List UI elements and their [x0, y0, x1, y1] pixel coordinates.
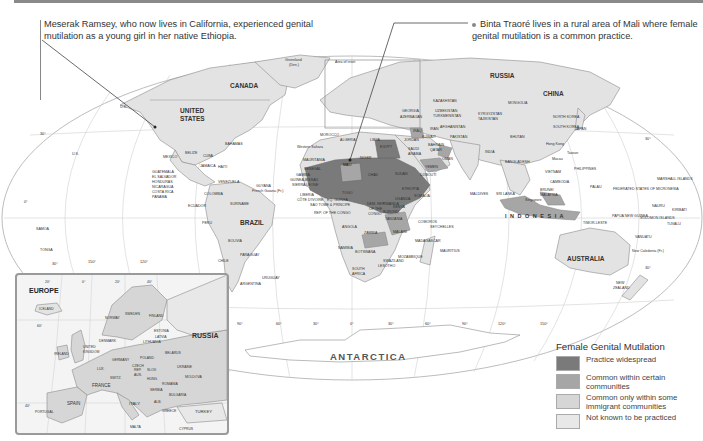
lon-label-60w: 60°: [276, 322, 282, 326]
europe-inset-map: EUROPE ICELAND NORWAY SWEDEN FINLAND RUS…: [17, 275, 227, 433]
inset-label-portugal: PORTUGAL: [35, 410, 54, 414]
label-malawi: MALAWI: [393, 230, 407, 234]
lon-label-120e: 120°: [498, 322, 506, 326]
inset-label-greece: GREECE: [162, 409, 177, 413]
inset-lat-40n: 40°: [25, 404, 31, 408]
label-drc-1: DEM. REP.: [367, 202, 385, 206]
label-georgia: GEORGIA: [402, 109, 419, 113]
legend-swatch-certain-communities: [556, 374, 580, 389]
inset-label-poland: POLAND: [140, 356, 154, 360]
label-drc-2: OF THE: [369, 207, 383, 211]
label-liberia: LIBERIA: [300, 193, 314, 197]
inset-label-czech-2: REP.: [134, 368, 142, 372]
label-mongolia: MONGOLIA: [508, 101, 528, 105]
label-djibouti: DJIBOUTI: [420, 173, 436, 177]
label-senegal: SENEGAL: [304, 167, 321, 171]
inset-label-latvia: LATVIA: [155, 335, 167, 339]
label-kyrgyzstan: KYRGYZSTAN: [478, 112, 502, 116]
label-saudi-2: ARABIA: [408, 152, 422, 156]
label-bangladesh: BANGLADESH: [505, 160, 530, 164]
label-yemen: YEMEN: [425, 165, 438, 169]
legend-swatch-widespread: [556, 356, 580, 371]
label-venezuela: VENEZUELA: [218, 180, 240, 184]
legend: Female Genital Mutilation Practice wides…: [556, 341, 703, 432]
inset-title: EUROPE: [29, 287, 59, 294]
inset-label-lux: LUX.: [97, 367, 105, 371]
lon-label-0: 0°: [350, 322, 354, 326]
inset-label-germany: GERMANY: [112, 358, 130, 362]
lon-label-60e: 60°: [425, 322, 431, 326]
inset-lon-20w: 20°: [45, 280, 51, 284]
inset-russia: [167, 275, 227, 335]
label-south-africa-2: AFRICA: [352, 272, 366, 276]
label-bhutan: BHUTAN: [510, 135, 525, 139]
label-libya: LIBYA: [370, 138, 381, 142]
lat-label-30s-right: 30°: [645, 266, 651, 270]
label-kazakhstan: KAZAKHSTAN: [433, 99, 457, 103]
label-marshall: MARSHALL ISLANDS: [657, 177, 693, 181]
label-somalia: SOMALIA: [414, 194, 431, 198]
label-lesotho: LESOTHO: [378, 264, 395, 268]
label-ecuador: ECUADOR: [188, 204, 206, 208]
label-paraguay: PARAGUAY: [240, 253, 260, 257]
legend-label-immigrant-communities: Common only within some immigrant commun…: [586, 394, 703, 411]
label-micronesia: FEDERATED STATES OF MICRONESIA: [613, 187, 679, 191]
label-chad: CHAD: [368, 173, 379, 177]
lon-label-30w: 30°: [313, 322, 319, 326]
label-sierra-leone: SIERRA LEONE: [292, 183, 319, 187]
label-area-of-inset: Area of inset: [335, 60, 355, 64]
inset-label-moldova: MOLDOVA: [185, 375, 202, 379]
inset-lon-20e: 20°: [115, 280, 121, 284]
label-taiwan: Taiwan: [567, 151, 578, 155]
label-russia: RUSSIA: [490, 72, 515, 79]
inset-label-aus: AUS.: [134, 373, 142, 377]
label-us-alaska: U.S.: [120, 105, 127, 109]
legend-title: Female Genital Mutilation: [556, 341, 703, 352]
label-burundi: BURUNDI: [383, 210, 399, 214]
label-namibia: NAMIBIA: [338, 246, 353, 250]
label-cuba: CUBA: [203, 154, 214, 158]
inset-label-finland: FINLAND: [149, 314, 164, 318]
inset-label-norway: NORWAY: [105, 316, 121, 320]
label-kiribati: KIRIBATI: [672, 208, 687, 212]
label-drc-3: CONGO: [368, 212, 382, 216]
label-vietnam: VIETNAM: [545, 170, 561, 174]
label-guyana: GUYANA: [256, 184, 272, 188]
label-south-africa-1: SOUTH: [352, 267, 365, 271]
label-botswana: BOTSWANA: [355, 250, 376, 254]
inset-label-spain: SPAIN: [67, 401, 80, 406]
label-peru: PERU: [202, 221, 212, 225]
inset-lon-0: 0°: [82, 280, 86, 284]
label-antarctica: ANTARCTICA: [330, 351, 407, 362]
label-guatemala: GUATEMALA: [152, 170, 175, 174]
label-sao-tome: SAO TOME & PRINCIPE: [310, 203, 351, 207]
label-turkmenistan: TURKMENISTAN: [433, 114, 461, 118]
label-comoros: COMOROS: [418, 220, 438, 224]
lat-label-0-left: 0°: [24, 200, 28, 204]
label-qatar: QATAR: [430, 148, 442, 152]
label-colombia: COLOMBIA: [204, 192, 224, 196]
label-cote-divoire: CÔTE D'IVOIRE: [297, 197, 324, 202]
lon-label-120w: 120°: [140, 260, 148, 264]
label-hong-kong: Hong Kong: [546, 142, 564, 146]
label-swaziland: SWAZILAND: [383, 259, 404, 263]
label-new-zealand-2: ZEALAND: [613, 286, 630, 290]
legend-item-widespread: Practice widespread: [556, 356, 703, 371]
legend-item-not-practiced: Not known to be practiced: [556, 414, 703, 429]
legend-item-immigrant-communities: Common only within some immigrant commun…: [556, 394, 703, 411]
label-belize: BELIZE: [185, 151, 198, 155]
inset-label-serbia: SERBIA: [150, 388, 163, 392]
label-mauritius: MAURITIUS: [440, 249, 460, 253]
legend-label-certain-communities: Common within certain communities: [586, 374, 703, 391]
lat-label-30s-left: 30°: [52, 262, 58, 266]
label-uzbekistan: UZBEKISTAN: [435, 109, 458, 113]
label-madagascar: MADAGASCAR: [415, 239, 441, 243]
inset-lat-60n: 60°: [37, 324, 43, 328]
inset-label-belarus: BELARUS: [165, 351, 182, 355]
label-palau: PALAU: [590, 185, 602, 189]
inset-label-sweden: SWEDEN: [125, 312, 140, 316]
inset-label-iceland: ICELAND: [39, 307, 54, 311]
label-japan: JAPAN: [575, 127, 587, 131]
inset-label-turkey: TURKEY: [195, 409, 212, 414]
label-iran: IRAN: [430, 127, 439, 131]
